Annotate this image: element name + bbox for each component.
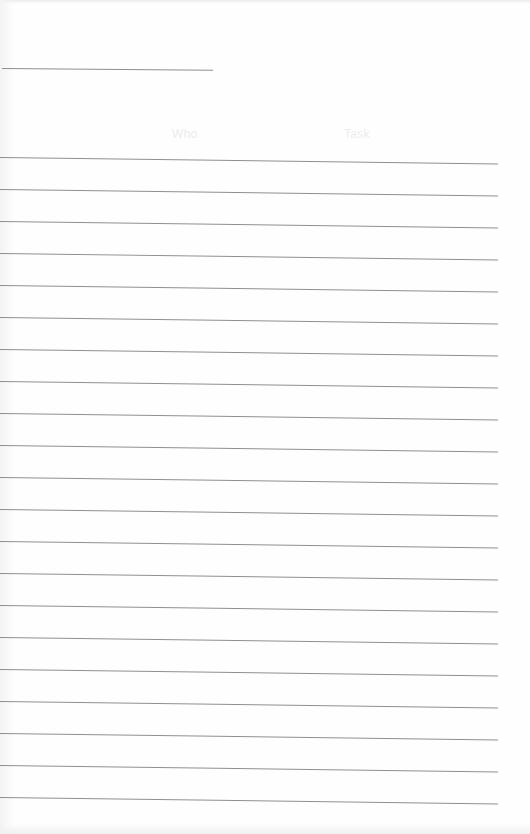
column-header-2: Task xyxy=(344,127,370,141)
ruled-line xyxy=(0,733,498,741)
ruled-line xyxy=(0,605,498,613)
ruled-line xyxy=(0,573,498,581)
ruled-page: Who Task xyxy=(0,0,530,834)
ruled-line xyxy=(0,541,498,549)
ruled-line xyxy=(0,381,498,389)
ruled-line xyxy=(0,445,498,453)
ruled-line xyxy=(0,189,498,197)
title-line xyxy=(2,68,213,71)
ruled-line xyxy=(0,157,498,165)
scan-edge-bottom xyxy=(0,824,530,834)
ruled-line xyxy=(0,413,498,421)
scan-edge-left xyxy=(0,0,14,834)
ruled-line xyxy=(0,253,498,261)
scan-edge-top xyxy=(0,0,530,4)
ruled-line xyxy=(0,637,498,645)
column-header-1: Who xyxy=(172,127,198,141)
ruled-line xyxy=(0,477,498,485)
ruled-line xyxy=(0,797,498,805)
ruled-line xyxy=(0,285,498,293)
ruled-line xyxy=(0,701,498,709)
ruled-line xyxy=(0,349,498,357)
ruled-line xyxy=(0,669,498,677)
ruled-line xyxy=(0,509,498,517)
ruled-line xyxy=(0,765,498,773)
ruled-line xyxy=(0,221,498,229)
ruled-line xyxy=(0,317,498,325)
